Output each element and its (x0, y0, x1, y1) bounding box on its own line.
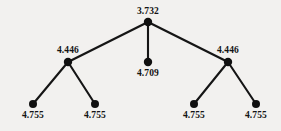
tree-edge (228, 62, 256, 104)
tree-node-dot (29, 100, 37, 108)
tree-edge (68, 22, 148, 62)
tree-node-label: 4.446 (217, 46, 239, 56)
tree-edge (33, 62, 68, 104)
tree-node-label: 4.755 (22, 111, 44, 121)
tree-diagram: 3.7324.4464.7094.4464.7554.7554.7554.755 (0, 0, 281, 131)
tree-node-dot (144, 58, 152, 66)
node-layer (29, 18, 260, 108)
tree-edge (68, 62, 95, 104)
tree-edge (148, 22, 228, 62)
tree-edge (194, 62, 228, 104)
tree-node-dot (252, 100, 260, 108)
tree-node-label: 4.446 (57, 46, 79, 56)
tree-node-dot (144, 18, 152, 26)
tree-node-dot (224, 58, 232, 66)
tree-node-dot (190, 100, 198, 108)
tree-node-label: 4.755 (183, 111, 205, 121)
tree-node-label: 4.755 (84, 111, 106, 121)
tree-node-dot (91, 100, 99, 108)
tree-node-label: 4.709 (137, 69, 159, 79)
tree-node-label: 3.732 (137, 7, 159, 17)
tree-node-label: 4.755 (245, 111, 267, 121)
tree-node-dot (64, 58, 72, 66)
